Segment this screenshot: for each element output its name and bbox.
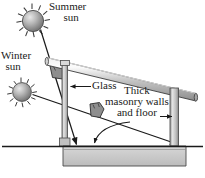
- ray-arrowhead-icon-winter: [90, 103, 104, 118]
- solar-house-diagram: Summer sun Winter sun Glass Thick masonr…: [0, 0, 205, 178]
- masonry-label-line3: and floor: [105, 107, 169, 118]
- summer-sun-label-line2: sun: [56, 12, 86, 23]
- summer-sun-label: Summer sun: [49, 1, 86, 23]
- sun-icon-winter: [7, 78, 37, 108]
- masonry-label: Thick masonry walls and floor: [105, 85, 169, 119]
- winter-sun-label: Winter sun: [1, 50, 31, 72]
- sun-icon-summer: [16, 4, 50, 38]
- masonry-floor-slab: [63, 146, 186, 166]
- leader-arrow-icon-floor: [95, 122, 131, 143]
- winter-sun-label-line2: sun: [0, 61, 31, 72]
